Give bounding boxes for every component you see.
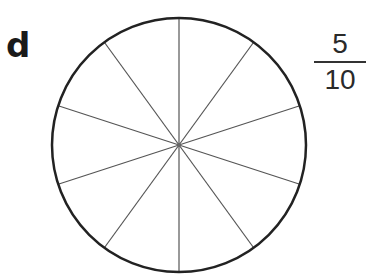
sector-divider-line (179, 106, 300, 145)
sector-divider-line (179, 145, 254, 248)
sector-divider-line (58, 106, 179, 145)
fraction-circle-diagram (0, 0, 376, 278)
sector-divider-line (179, 42, 254, 145)
sector-divider-line (104, 145, 179, 248)
center-point (177, 143, 181, 147)
sector-divider-line (104, 42, 179, 145)
sector-divider-line (58, 145, 179, 184)
sector-divider-line (179, 145, 300, 184)
